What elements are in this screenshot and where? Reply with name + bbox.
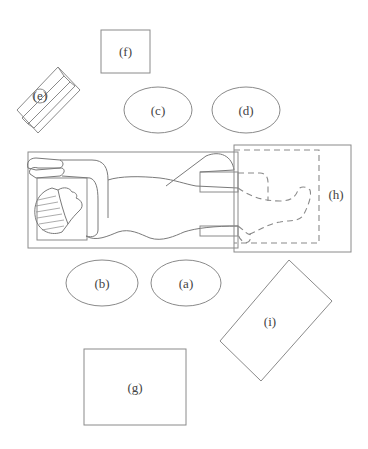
label-a: (a)	[179, 276, 193, 291]
or-layout-diagram: (f) (e) (c) (d)	[0, 0, 368, 449]
station-a: (a)	[151, 260, 221, 306]
label-b: (b)	[94, 276, 109, 291]
operating-table	[28, 152, 238, 248]
patient-torso	[86, 154, 238, 240]
station-d: (d)	[212, 87, 280, 133]
station-b: (b)	[66, 260, 138, 306]
label-c: (c)	[151, 103, 165, 118]
station-f: (f)	[101, 30, 150, 73]
label-h: (h)	[328, 187, 343, 202]
patient-legs-under-drape	[238, 173, 311, 243]
label-d: (d)	[238, 103, 253, 118]
label-e: (e)	[33, 88, 47, 103]
label-i: (i)	[264, 314, 276, 329]
patient-figure	[27, 154, 310, 243]
label-f: (f)	[119, 44, 132, 59]
station-c: (c)	[124, 87, 192, 133]
label-g: (g)	[127, 380, 142, 395]
station-h-drape: (h)	[234, 145, 351, 252]
patient-head	[35, 188, 82, 234]
station-i: (i)	[220, 260, 332, 381]
station-g: (g)	[84, 349, 186, 425]
station-e: (e)	[17, 67, 80, 133]
